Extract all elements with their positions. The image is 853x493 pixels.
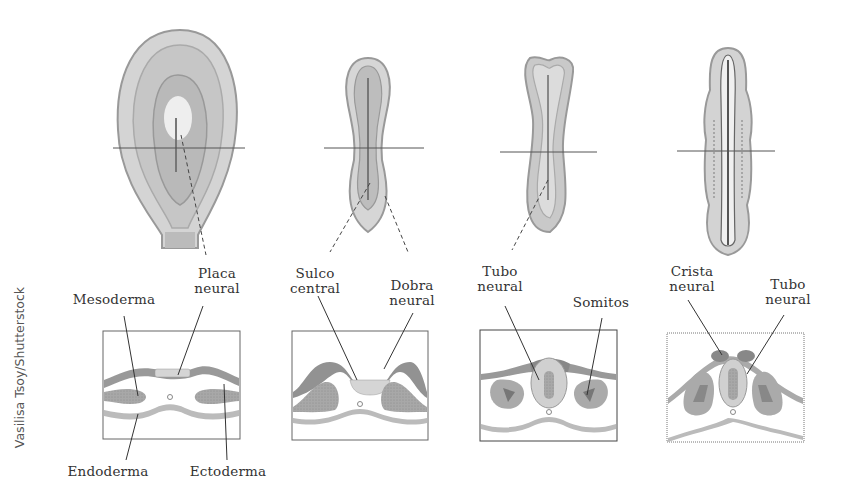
label-line-2: central bbox=[285, 281, 345, 296]
label-endoderma: Endoderma bbox=[58, 464, 158, 479]
label-crista-neural: Crista neural bbox=[662, 264, 722, 294]
label-tubo-neural-3: Tubo neural bbox=[470, 264, 530, 294]
label-tubo-neural-4: Tubo neural bbox=[758, 277, 818, 307]
cross-section-1 bbox=[103, 331, 240, 439]
label-placa-neural: Placa neural bbox=[187, 266, 247, 296]
label-line-1: Dobra bbox=[382, 278, 442, 293]
label-mesoderma: Mesoderma bbox=[64, 292, 164, 307]
label-line-2: neural bbox=[470, 279, 530, 294]
embryo-stage-1 bbox=[113, 30, 245, 255]
label-line-2: neural bbox=[187, 281, 247, 296]
label-dobra-neural: Dobra neural bbox=[382, 278, 442, 308]
label-line-2: neural bbox=[662, 279, 722, 294]
label-line-1: Crista bbox=[662, 264, 722, 279]
label-line-1: Tubo bbox=[758, 277, 818, 292]
label-line-1: Sulco bbox=[285, 266, 345, 281]
label-line-2: neural bbox=[758, 292, 818, 307]
cross-section-4 bbox=[667, 333, 804, 442]
label-somitos: Somitos bbox=[566, 295, 636, 310]
label-sulco-central: Sulco central bbox=[285, 266, 345, 296]
embryo-stage-4 bbox=[677, 48, 775, 255]
label-line-1: Placa bbox=[187, 266, 247, 281]
cross-section-2 bbox=[292, 331, 428, 440]
embryo-stage-2 bbox=[324, 58, 424, 252]
label-line-1: Tubo bbox=[470, 264, 530, 279]
label-line-2: neural bbox=[382, 293, 442, 308]
embryo-diagram bbox=[0, 0, 853, 493]
image-credit: Vasilisa Tsoy/Shutterstock bbox=[12, 283, 27, 453]
embryo-stage-3 bbox=[500, 57, 597, 250]
label-ectoderma: Ectoderma bbox=[180, 464, 276, 479]
